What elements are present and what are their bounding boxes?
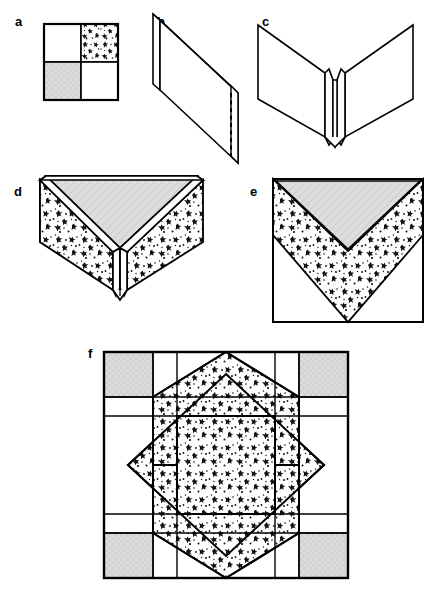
pleat-right-petal bbox=[337, 69, 345, 145]
folding-diagram-svg: a b c d bbox=[0, 0, 435, 597]
corner-square-bottom-right bbox=[299, 533, 348, 578]
panel-d-label: d bbox=[14, 184, 22, 199]
corner-square-top-left bbox=[104, 352, 153, 397]
centre-print-square bbox=[177, 416, 275, 514]
corner-square-bottom-left bbox=[104, 533, 153, 578]
fold-back-leaf bbox=[153, 14, 160, 90]
unit-pleat-right bbox=[120, 248, 127, 296]
panel-c-label: c bbox=[262, 14, 269, 29]
patch-top-left bbox=[44, 24, 81, 62]
panel-f-label: f bbox=[88, 346, 93, 361]
panel-e: e bbox=[250, 179, 423, 322]
panel-a-four-patch bbox=[44, 24, 118, 100]
patch-top-right-print bbox=[81, 24, 118, 62]
panel-e-label: e bbox=[250, 184, 257, 199]
patch-bottom-right bbox=[81, 62, 118, 100]
figure-root: a b c d bbox=[0, 0, 435, 597]
unit-pleat-left bbox=[113, 248, 120, 296]
fold-right-edge-sliver bbox=[231, 86, 238, 163]
corner-square-top-right bbox=[299, 352, 348, 397]
panel-f: f bbox=[88, 346, 348, 578]
patch-bottom-left-shaded bbox=[44, 62, 81, 100]
pleat-valley bbox=[333, 80, 337, 147]
pleat-left-petal bbox=[325, 69, 333, 145]
unit-top-edge-strip bbox=[40, 176, 203, 180]
panel-a-label: a bbox=[15, 14, 23, 29]
